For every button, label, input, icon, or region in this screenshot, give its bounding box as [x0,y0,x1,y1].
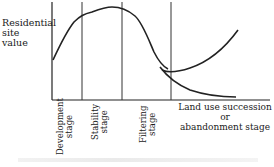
stage-label-line: stage [100,104,109,140]
stage-label-line: abandonment stage [176,122,274,132]
stage-label-line: stage [65,98,74,155]
stage-label-stability: Stability stage [91,104,109,140]
stage-label-development: Development stage [56,98,74,155]
residential-value-lifecycle-diagram: Residential site value Development stage… [0,0,274,167]
stage-label-line: Land use succession [176,102,274,112]
stage-label-line: or [176,112,274,122]
blurred-caption [18,158,258,162]
stage-label-succession-abandonment: Land use succession or abandonment stage [176,102,274,132]
y-label-line: value [2,38,62,48]
main-value-curve [53,7,168,69]
y-axis-label: Residential site value [2,18,62,48]
succession-branch-curve [162,30,238,72]
stage-label-filtering: Filtering stage [139,106,157,143]
stage-label-line: stage [148,106,157,143]
